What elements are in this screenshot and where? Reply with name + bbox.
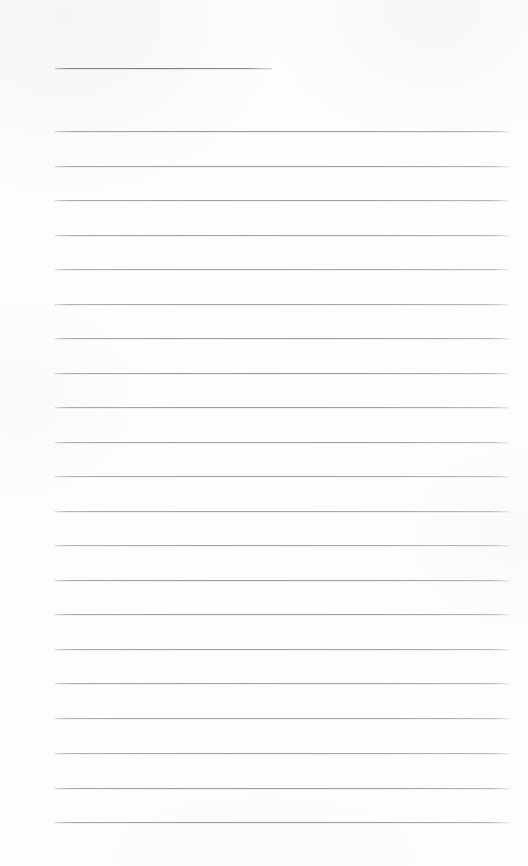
- ruled-line: [55, 407, 509, 408]
- left-margin-zone: [0, 0, 55, 866]
- ruled-line: [55, 235, 509, 236]
- right-margin-zone: [509, 0, 528, 866]
- notepaper-page: [0, 0, 528, 866]
- ruled-line: [55, 614, 509, 615]
- ruled-line: [55, 511, 509, 512]
- ruled-line: [55, 476, 509, 477]
- ruled-line: [55, 580, 509, 581]
- ruled-line: [55, 200, 509, 201]
- ruled-line: [55, 131, 509, 132]
- ruled-line: [55, 718, 509, 719]
- ruled-line: [55, 545, 509, 546]
- ruled-line: [55, 788, 509, 789]
- ruled-line: [55, 683, 509, 684]
- ruled-line: [55, 166, 509, 167]
- paper-texture: [0, 0, 528, 866]
- ruled-line: [55, 442, 509, 443]
- ruled-line: [55, 753, 509, 754]
- ruled-line: [55, 338, 509, 339]
- ruled-line: [55, 373, 509, 374]
- ruled-line: [55, 822, 509, 823]
- ruled-line: [55, 304, 509, 305]
- title-rule: [55, 68, 272, 69]
- ruled-line: [55, 649, 509, 650]
- ruled-line: [55, 269, 509, 270]
